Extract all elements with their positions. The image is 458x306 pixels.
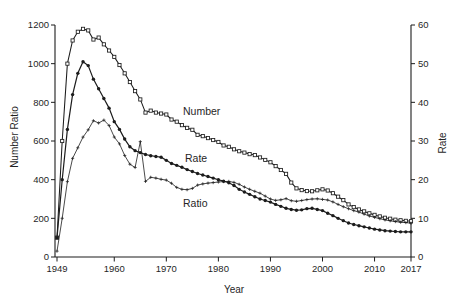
axes (55, 25, 411, 257)
series-label-ratio: Ratio (183, 197, 208, 209)
svg-text:1000: 1000 (28, 58, 49, 69)
y-axis-left-ticks: 020040060080010001200 (28, 19, 55, 262)
svg-text:40: 40 (418, 97, 429, 108)
x-axis-title: Year (224, 284, 244, 295)
svg-text:60: 60 (418, 19, 429, 30)
svg-text:1200: 1200 (28, 19, 49, 30)
svg-text:2017: 2017 (400, 263, 421, 274)
svg-text:20: 20 (418, 174, 429, 185)
chart-plot-area: 0200400600800100012000102030405060194919… (0, 0, 458, 306)
svg-text:0: 0 (418, 251, 423, 262)
x-axis-ticks: 19491960197019801990200020102017 (46, 257, 421, 274)
series-label-number: Number (183, 105, 220, 117)
svg-text:1990: 1990 (260, 263, 281, 274)
svg-text:0: 0 (44, 251, 49, 262)
y-axis-left-title: Number Ratio (9, 106, 20, 168)
svg-text:10: 10 (418, 213, 429, 224)
svg-text:600: 600 (33, 135, 49, 146)
y-axis-right-ticks: 0102030405060 (411, 19, 429, 262)
svg-text:200: 200 (33, 213, 49, 224)
line-chart-figure: 0200400600800100012000102030405060194919… (0, 0, 458, 306)
svg-text:2000: 2000 (312, 263, 333, 274)
svg-text:1970: 1970 (156, 263, 177, 274)
svg-text:400: 400 (33, 174, 49, 185)
svg-text:1980: 1980 (208, 263, 229, 274)
series-label-rate: Rate (185, 152, 207, 164)
series-number-markers (55, 27, 412, 239)
svg-text:2010: 2010 (364, 263, 385, 274)
series-number (55, 27, 412, 239)
svg-text:1960: 1960 (104, 263, 125, 274)
svg-text:1949: 1949 (46, 263, 67, 274)
svg-text:800: 800 (33, 97, 49, 108)
svg-text:50: 50 (418, 58, 429, 69)
svg-text:30: 30 (418, 135, 429, 146)
y-axis-right-title: Rate (437, 132, 448, 153)
series-number-line (57, 29, 411, 238)
